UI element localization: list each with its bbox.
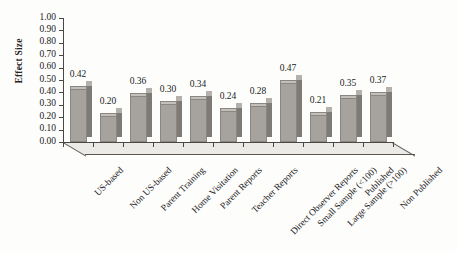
bar-side-face bbox=[87, 85, 92, 137]
bar-side-face bbox=[237, 107, 242, 137]
bar-top-face bbox=[340, 95, 357, 99]
y-axis-tick-mark bbox=[59, 55, 63, 56]
floor-back-edge bbox=[85, 154, 415, 155]
bar-top-face bbox=[70, 86, 87, 90]
bar-front-face bbox=[250, 107, 267, 142]
bar-value-label: 0.37 bbox=[370, 75, 387, 85]
bar: 0.20 bbox=[100, 18, 117, 142]
x-axis-line bbox=[63, 142, 393, 143]
bar-top-depth-face bbox=[386, 87, 392, 92]
x-axis-tick-mark bbox=[333, 142, 334, 147]
x-axis-tick-mark bbox=[123, 142, 124, 147]
y-axis-tick-mark bbox=[59, 43, 63, 44]
y-axis-line bbox=[63, 18, 64, 142]
bar-side-face bbox=[147, 92, 152, 137]
floor-left-depth-edge bbox=[63, 142, 87, 156]
bar: 0.28 bbox=[250, 18, 267, 142]
bar: 0.24 bbox=[220, 18, 237, 142]
bar-front-face bbox=[310, 116, 327, 142]
y-axis-tick-label: 0.10 bbox=[39, 123, 56, 133]
bar-value-label: 0.36 bbox=[130, 76, 147, 86]
bar: 0.47 bbox=[280, 18, 297, 142]
bar-front-face bbox=[160, 105, 177, 142]
y-axis-tick-label: 0.30 bbox=[39, 98, 56, 108]
bar-top-face bbox=[220, 108, 237, 112]
x-axis-tick-mark bbox=[243, 142, 244, 147]
y-axis-tick-label: 0.40 bbox=[39, 86, 56, 96]
y-axis-tick-label: 1.00 bbox=[39, 12, 56, 22]
bar-top-face bbox=[250, 103, 267, 107]
x-axis-category-label: US-based bbox=[92, 165, 125, 198]
bar-value-label: 0.42 bbox=[70, 69, 87, 79]
bar-top-face bbox=[130, 93, 147, 97]
y-axis-tick-label: 0.20 bbox=[39, 111, 56, 121]
bar-value-label: 0.24 bbox=[220, 91, 237, 101]
bar-value-label: 0.35 bbox=[340, 78, 357, 88]
bar-side-face bbox=[117, 112, 122, 137]
y-axis-tick-mark bbox=[59, 68, 63, 69]
bar-value-label: 0.20 bbox=[100, 96, 117, 106]
x-axis-tick-mark bbox=[183, 142, 184, 147]
y-axis-tick-mark bbox=[59, 18, 63, 19]
y-axis-tick-mark bbox=[59, 30, 63, 31]
x-axis-tick-mark bbox=[63, 142, 64, 147]
bar-value-label: 0.47 bbox=[280, 63, 297, 73]
bar-front-face bbox=[220, 112, 237, 142]
y-axis-tick-label: 0.60 bbox=[39, 61, 56, 71]
bar-side-face bbox=[387, 91, 392, 137]
x-axis-tick-mark bbox=[93, 142, 94, 147]
bar-top-depth-face bbox=[206, 91, 212, 96]
bar-top-face bbox=[280, 80, 297, 84]
x-axis-tick-mark bbox=[393, 142, 394, 147]
bar-front-face bbox=[100, 117, 117, 142]
bar: 0.42 bbox=[70, 18, 87, 142]
bar-top-face bbox=[370, 92, 387, 96]
y-axis-title: Effect Size bbox=[14, 16, 24, 106]
effect-size-bar-chart: Effect Size 1.000.900.800.700.600.500.40… bbox=[0, 0, 457, 253]
bar-front-face bbox=[130, 97, 147, 142]
bar-value-label: 0.28 bbox=[250, 86, 267, 96]
y-axis-tick-mark bbox=[59, 80, 63, 81]
bar: 0.36 bbox=[130, 18, 147, 142]
y-axis-tick-label: 0.50 bbox=[39, 74, 56, 84]
y-axis-tick-mark bbox=[59, 92, 63, 93]
y-axis-tick-mark bbox=[59, 105, 63, 106]
y-axis-tick-label: 0.00 bbox=[39, 136, 56, 146]
bar-top-depth-face bbox=[356, 90, 362, 95]
bar-top-face bbox=[310, 112, 327, 116]
y-axis-tick-label: 0.80 bbox=[39, 36, 56, 46]
bar-value-label: 0.30 bbox=[160, 84, 177, 94]
bar-side-face bbox=[267, 102, 272, 137]
y-axis-tick-label: 0.70 bbox=[39, 49, 56, 59]
bar-top-depth-face bbox=[236, 103, 242, 108]
bar-side-face bbox=[207, 95, 212, 137]
bar-value-label: 0.21 bbox=[310, 95, 327, 105]
bar-front-face bbox=[190, 100, 207, 142]
bar-value-label: 0.34 bbox=[190, 79, 207, 89]
y-axis-tick-label: 0.90 bbox=[39, 24, 56, 34]
bar-front-face bbox=[370, 96, 387, 142]
bar-top-depth-face bbox=[86, 81, 92, 86]
plot-area: 1.000.900.800.700.600.500.400.300.200.10… bbox=[63, 18, 437, 142]
bar-top-face bbox=[190, 96, 207, 100]
x-axis-tick-mark bbox=[363, 142, 364, 147]
bar-top-depth-face bbox=[146, 88, 152, 93]
bar-side-face bbox=[297, 79, 302, 137]
bar-top-depth-face bbox=[266, 98, 272, 103]
bar-side-face bbox=[327, 111, 332, 137]
bar-top-face bbox=[100, 113, 117, 117]
bar: 0.34 bbox=[190, 18, 207, 142]
bar-top-depth-face bbox=[296, 75, 302, 80]
x-axis-tick-mark bbox=[213, 142, 214, 147]
bar-front-face bbox=[340, 99, 357, 142]
y-axis-tick-mark bbox=[59, 117, 63, 118]
bar-top-face bbox=[160, 101, 177, 105]
bar: 0.30 bbox=[160, 18, 177, 142]
bar: 0.21 bbox=[310, 18, 327, 142]
x-axis-tick-mark bbox=[303, 142, 304, 147]
x-axis-tick-mark bbox=[273, 142, 274, 147]
bar: 0.37 bbox=[370, 18, 387, 142]
bar-front-face bbox=[280, 84, 297, 142]
bar-front-face bbox=[70, 90, 87, 142]
bar-side-face bbox=[177, 100, 182, 137]
